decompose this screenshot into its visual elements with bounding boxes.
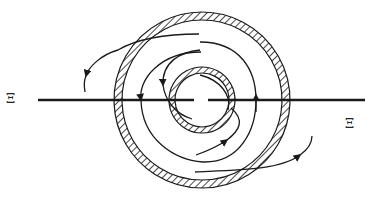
section-label-right: Ξ: [345, 117, 354, 130]
diagram-canvas: Ξ Ξ: [0, 0, 377, 205]
spiral-flow-diagram: [0, 0, 377, 205]
section-label-left: Ξ: [6, 92, 15, 105]
